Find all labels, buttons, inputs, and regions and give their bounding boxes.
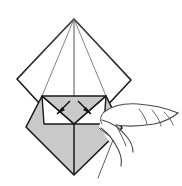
origami-diagram: Origami fold step diagram A square sheet… xyxy=(0,0,182,186)
origami-figure-container: Origami fold step diagram A square sheet… xyxy=(0,0,182,186)
